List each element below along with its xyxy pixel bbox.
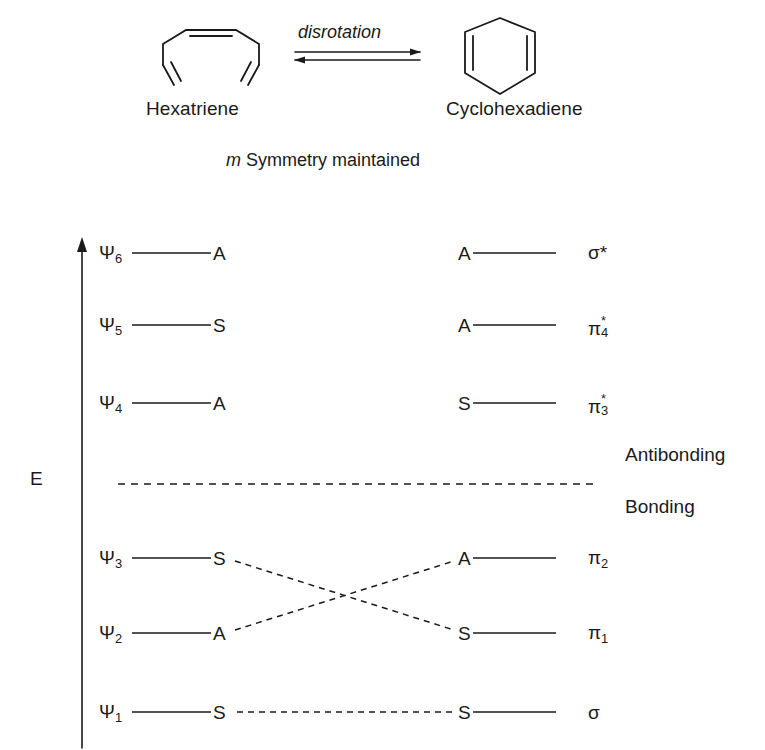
- symmetry-right-pi4-star: A: [458, 316, 471, 335]
- right-level-lines: [473, 253, 556, 712]
- symmetry-right-sigma-star: A: [458, 244, 471, 263]
- energy-axis-arrow: [77, 237, 87, 748]
- symmetry-right-sigma: S: [458, 703, 471, 722]
- orbital-label-pi4-star: π*4: [588, 313, 608, 338]
- orbital-label-psi4: Ψ4: [99, 393, 122, 412]
- symmetry-left-psi6: A: [213, 244, 226, 263]
- symmetry-right-pi2: A: [458, 549, 471, 568]
- symmetry-left-psi4: A: [213, 394, 226, 413]
- orbital-label-psi6: Ψ6: [99, 243, 122, 262]
- symmetry-left-psi5: S: [213, 316, 226, 335]
- orbital-label-psi3: Ψ3: [99, 548, 122, 567]
- symmetry-left-psi3: S: [213, 549, 226, 568]
- symmetry-right-pi1: S: [458, 624, 471, 643]
- orbital-label-pi1: π1: [588, 623, 608, 642]
- orbital-correlation-diagram-page: Hexatriene Cyclohexadiene disrotation m …: [0, 0, 765, 750]
- orbital-label-psi2: Ψ2: [99, 623, 122, 642]
- left-level-lines: [132, 253, 211, 712]
- bonding-region-label: Bonding: [625, 496, 695, 518]
- symmetry-left-psi2: A: [213, 624, 226, 643]
- symmetry-right-pi3-star: S: [458, 394, 471, 413]
- orbital-label-sigma-star: σ*: [588, 243, 607, 262]
- antibonding-region-label: Antibonding: [625, 444, 725, 466]
- orbital-label-psi5: Ψ5: [99, 315, 122, 334]
- orbital-label-sigma: σ: [588, 703, 600, 722]
- orbital-label-pi2: π2: [588, 548, 608, 567]
- energy-axis-label: E: [30, 468, 43, 490]
- orbital-label-pi3-star: π*3: [588, 391, 608, 416]
- orbital-label-psi1: Ψ1: [99, 702, 122, 721]
- correlation-lines: [235, 561, 454, 712]
- symmetry-left-psi1: S: [213, 703, 226, 722]
